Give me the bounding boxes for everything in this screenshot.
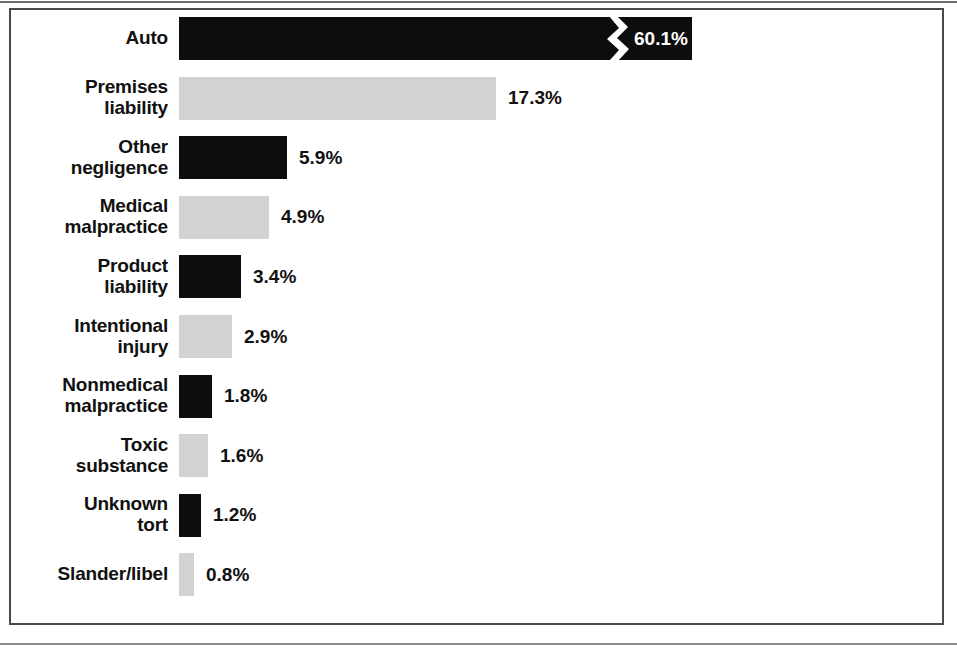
bar-value-label: 1.8% <box>224 386 267 405</box>
category-label-line: Toxic <box>0 434 168 455</box>
bar <box>179 136 287 179</box>
bar <box>179 434 208 477</box>
category-label-line: Product <box>0 255 168 276</box>
bar-value-label: 5.9% <box>299 148 342 167</box>
category-label-line: liability <box>0 97 168 118</box>
category-label: Nonmedicalmalpractice <box>0 374 168 416</box>
category-label: Productliability <box>0 255 168 297</box>
category-label-line: Intentional <box>0 315 168 336</box>
category-label-line: malpractice <box>0 395 168 416</box>
category-label-line: Premises <box>0 76 168 97</box>
bar-value-label: 17.3% <box>508 88 562 107</box>
bar-chart-figure: Auto60.1%Premisesliability17.3%Othernegl… <box>0 0 957 653</box>
bar-value-label: 3.4% <box>253 267 296 286</box>
category-label-line: Unknown <box>0 493 168 514</box>
page-bottom-rule <box>0 643 957 645</box>
category-label-line: Auto <box>0 27 168 48</box>
bar <box>179 196 269 239</box>
category-label: Othernegligence <box>0 136 168 178</box>
bar <box>179 494 201 537</box>
category-label-line: Nonmedical <box>0 374 168 395</box>
bar-value-label: 4.9% <box>281 207 324 226</box>
category-label-line: substance <box>0 455 168 476</box>
category-label: Toxicsubstance <box>0 434 168 476</box>
category-label: Slander/libel <box>0 563 168 584</box>
bar-value-label: 1.6% <box>220 446 263 465</box>
bar-value-label: 0.8% <box>206 565 249 584</box>
category-label-line: malpractice <box>0 216 168 237</box>
category-label-line: injury <box>0 336 168 357</box>
category-label: Unknowntort <box>0 493 168 535</box>
category-label: Premisesliability <box>0 76 168 118</box>
category-label-line: Slander/libel <box>0 563 168 584</box>
bar <box>179 77 496 120</box>
bar-value-label: 60.1% <box>634 29 688 48</box>
bar <box>179 553 194 596</box>
bar-value-label: 1.2% <box>213 505 256 524</box>
category-label: Intentionalinjury <box>0 315 168 357</box>
bar <box>179 255 241 298</box>
bar <box>179 17 692 60</box>
category-label-line: negligence <box>0 157 168 178</box>
category-label-line: Other <box>0 136 168 157</box>
category-label-line: tort <box>0 514 168 535</box>
category-label-line: Medical <box>0 195 168 216</box>
plot-area: Auto60.1%Premisesliability17.3%Othernegl… <box>0 0 957 653</box>
category-label: Auto <box>0 27 168 48</box>
category-label-line: liability <box>0 276 168 297</box>
category-label: Medicalmalpractice <box>0 195 168 237</box>
bar-value-label: 2.9% <box>244 327 287 346</box>
bar <box>179 315 232 358</box>
bar <box>179 375 212 418</box>
